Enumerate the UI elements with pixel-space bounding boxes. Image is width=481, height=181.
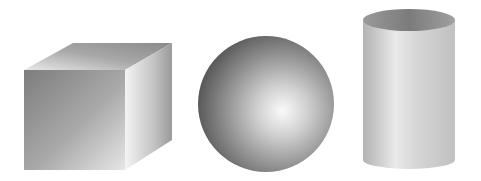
sphere-shape	[198, 36, 334, 172]
geometric-shapes-canvas	[0, 0, 481, 181]
cube-shape	[24, 43, 172, 170]
cylinder-body	[363, 20, 455, 169]
sphere-body	[198, 36, 334, 172]
cylinder-top-ellipse	[363, 9, 455, 31]
cube-front-face	[24, 70, 125, 170]
cylinder-shape	[363, 9, 455, 169]
